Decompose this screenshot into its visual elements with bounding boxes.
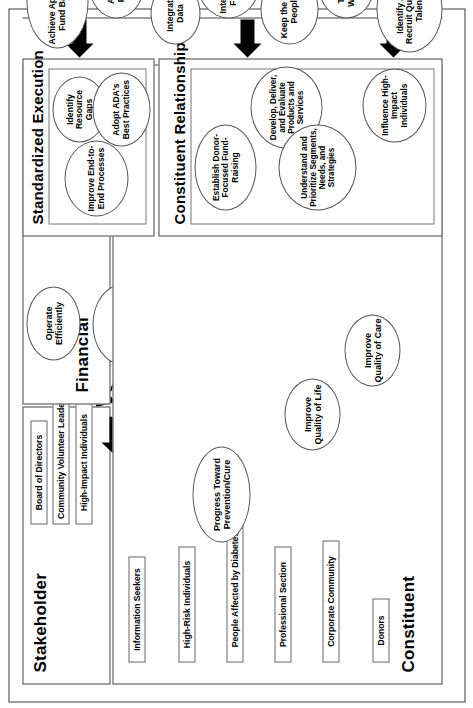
chip-donors: Donors [372,598,389,662]
chip-corporate-community: Corporate Community [322,540,339,662]
objective-establish-donor-focused-fund-raising: Establish Donor-Focused Fund-Raising [194,124,256,210]
objective-improve-quality-of-care: Improve Quality of Care [344,314,400,386]
chip-high-risk-individuals: High-Risk Individuals [178,546,195,662]
objective-operate-efficiently: Operate Efficiently [26,286,80,360]
objective-influence-high-impact-individuals: Influence High-Impact Individuals [362,68,426,142]
diagram-frame: Stakeholder Board of Directors Community… [0,0,473,708]
chip-board-of-directors: Board of Directors [30,420,47,524]
objective-adopt-ada-best-practices: Adopt ADA's Best Practices [92,72,150,146]
block-arrow-enablers-to-crm-upper [232,18,262,58]
objective-understand-prioritize-segments: Understand and Prioritize Segments, Need… [278,124,356,210]
panel-title-constituent: Constituent [398,575,418,672]
enablers-spacer [22,19,23,20]
chip-professional-section: Professional Section [274,546,291,662]
objective-improve-quality-of-life: Improve Quality of Life [284,378,340,450]
chip-high-impact-individuals: High-Impact Individuals [75,400,92,524]
diagram-canvas: Stakeholder Board of Directors Community… [0,0,473,708]
panel-title-standardized-execution: Standardized Execution [28,50,45,224]
objective-improve-end-to-end-processes: Improve End-to-End Processes [64,140,128,216]
objective-progress-toward-prevention-cure: Progress Toward Prevention/Cure [192,446,250,542]
panel-title-stakeholder: Stakeholder [30,572,50,672]
chip-information-seekers: Information Seekers [128,556,145,662]
